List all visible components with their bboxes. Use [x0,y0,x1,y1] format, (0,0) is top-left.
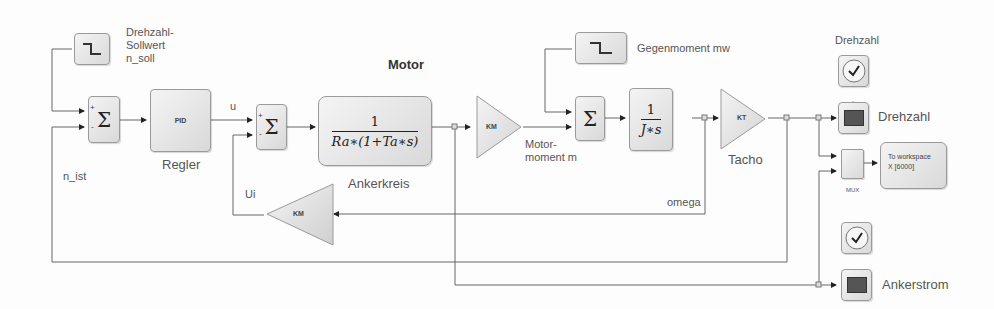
gain-text: KM [293,210,304,217]
scope-icon [847,277,867,293]
to-workspace-name: To workspace [888,152,946,162]
motormoment-label-line1: Motor- [525,138,557,151]
clock-icon [841,58,867,84]
regler-label: Regler [162,158,200,171]
scope-ankerstrom-label: Ankerstrom [882,278,948,291]
pid-text: PID [175,117,187,124]
signal-ui-label: Ui [245,188,255,201]
scope-icon [844,110,864,126]
gain-block-kt[interactable]: KT [720,88,766,150]
sum2-sign-plus: + [258,111,263,120]
to-workspace-block[interactable]: To workspace X [6000] [880,142,947,189]
to-workspace-variable: X [6000] [888,162,946,172]
scope-block-ankerstrom[interactable] [841,269,872,301]
step-icon [588,40,614,56]
signal-u-label: u [230,100,236,113]
sigma-symbol: Σ [583,107,597,131]
sum2-sign-minus: - [259,129,262,138]
clock-block-2[interactable] [841,222,872,254]
step-label-line3: n_soll [126,52,155,65]
step-label-line1: Drehzahl- [126,26,174,39]
motormoment-label-line2: moment m [525,151,577,164]
gain-text: KT [737,114,746,121]
ankerkreis-label: Ankerkreis [348,177,409,190]
gain-block-km-forward[interactable]: KM [476,95,522,159]
ankerkreis-transfer-block[interactable]: 1 Ra∗(1+Ta∗s) [318,96,432,166]
step-icon [81,41,103,57]
clock-icon [844,225,870,251]
sum-block-3[interactable]: Σ [575,96,605,141]
sum1-sign-minus: - [91,122,94,131]
sigma-symbol: Σ [264,115,278,139]
gain-text: KM [486,123,497,130]
subsystem-title: Motor [388,58,424,71]
integrator-block[interactable]: 1 J∗s [629,88,673,151]
sum1-sign-plus: + [90,103,95,112]
scope-block-drehzahl[interactable] [838,102,869,134]
tacho-label: Tacho [728,153,763,166]
clock-drehzahl-label: Drehzahl [835,34,879,47]
step-label-line2: Sollwert [126,39,165,52]
gain-block-km-feedback[interactable]: KM [266,183,334,246]
block-diagram: Motor Drehzahl- Sollwert n_soll Σ + - PI… [0,0,994,309]
mux-block[interactable] [841,149,864,179]
tf-numerator: 1 [332,114,419,132]
scope-drehzahl-label: Drehzahl [878,110,930,123]
clock-block-1[interactable] [838,55,869,87]
gegenmoment-label: Gegenmoment mw [637,42,730,55]
signal-nist-label: n_ist [63,170,86,183]
step-block-mw[interactable] [575,32,627,64]
sigma-symbol: Σ [97,108,111,132]
signal-omega-label: omega [667,196,701,209]
pid-block[interactable]: PID [150,89,211,152]
tf-numerator: 1 [641,102,662,120]
mux-label: MUX [846,184,859,197]
tf-denominator: Ra∗(1+Ta∗s) [332,132,419,149]
tf-denominator: J∗s [641,120,662,137]
step-block-nsoll[interactable] [74,33,110,65]
